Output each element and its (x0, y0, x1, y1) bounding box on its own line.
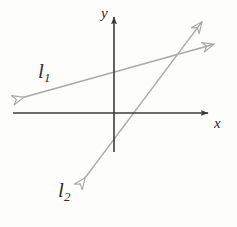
coordinate-plane-svg (0, 0, 237, 227)
line-l2-label-base: l (58, 178, 64, 202)
line-l2-segment (85, 22, 202, 178)
line-l1 (23, 44, 213, 97)
y-axis-label: y (101, 6, 108, 21)
line-l1-segment (23, 44, 213, 97)
line-l1-label-subscript: 1 (44, 70, 51, 85)
line-l2-label: l2 (58, 180, 71, 203)
figure-canvas: y x l1 l2 (0, 0, 237, 227)
line-l1-label-base: l (38, 59, 44, 83)
line-l1-label: l1 (38, 61, 51, 84)
line-l2-label-subscript: 2 (64, 189, 71, 204)
x-axis-label: x (214, 116, 221, 131)
line-l2 (85, 22, 202, 178)
